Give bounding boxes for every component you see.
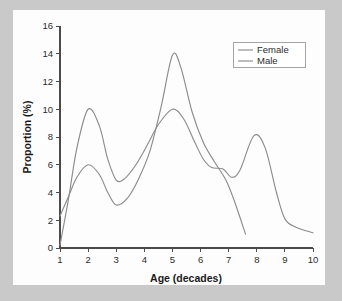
y-tick-label: 6 (48, 159, 53, 170)
legend-label-female[interactable]: Female (257, 44, 289, 55)
chart-legend[interactable]: FemaleMale (233, 42, 305, 67)
x-tick-label: 6 (198, 254, 203, 265)
x-tick-label: 1 (57, 254, 62, 265)
x-tick-label: 8 (254, 254, 259, 265)
y-tick-label: 0 (48, 242, 53, 253)
x-tick-label: 3 (114, 254, 119, 265)
y-tick-label: 14 (42, 48, 53, 59)
x-tick-label: 7 (226, 254, 231, 265)
y-axis: 0246810121416 (42, 20, 60, 253)
legend-label-male[interactable]: Male (257, 55, 278, 66)
y-tick-label: 8 (48, 131, 53, 142)
x-tick-label: 5 (170, 254, 175, 265)
x-tick-label: 9 (282, 254, 287, 265)
y-tick-label: 10 (42, 104, 53, 115)
y-tick-label: 2 (48, 215, 53, 226)
x-axis-title: Age (decades) (150, 272, 222, 284)
x-axis: 12345678910 (57, 248, 318, 265)
y-tick-label: 12 (42, 76, 53, 87)
series-line-female (60, 53, 246, 234)
y-axis-title: Proportion (%) (21, 101, 33, 174)
x-tick-label: 4 (142, 254, 147, 265)
x-tick-label: 2 (85, 254, 90, 265)
series-layer (60, 53, 313, 245)
y-tick-label: 4 (48, 187, 53, 198)
line-chart: 0246810121416 12345678910 FemaleMale Age… (0, 0, 342, 301)
y-tick-label: 16 (42, 20, 53, 31)
series-line-male (60, 109, 313, 246)
chart-figure: 0246810121416 12345678910 FemaleMale Age… (0, 0, 342, 301)
x-tick-label: 10 (308, 254, 319, 265)
